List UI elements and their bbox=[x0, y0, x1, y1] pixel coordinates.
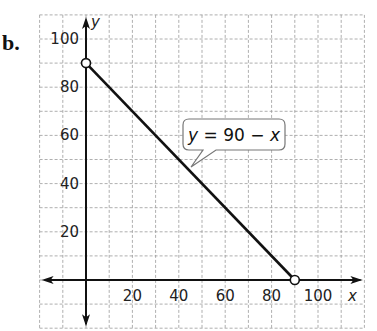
function-line bbox=[86, 63, 295, 280]
graph: 2040608010020406080100xy y = 90 − x bbox=[0, 0, 377, 331]
y-tick-label: 60 bbox=[60, 126, 79, 144]
x-tick-label: 60 bbox=[216, 287, 235, 305]
y-axis-label: y bbox=[90, 13, 101, 31]
y-tick-label: 100 bbox=[50, 30, 79, 48]
open-endpoint-icon bbox=[290, 276, 299, 285]
open-endpoint-icon bbox=[82, 59, 91, 68]
equation-label: y = 90 − x bbox=[187, 125, 281, 145]
y-tick-label: 80 bbox=[60, 78, 79, 96]
x-tick-label: 40 bbox=[169, 287, 188, 305]
x-axis-label: x bbox=[347, 287, 357, 305]
x-tick-label: 20 bbox=[123, 287, 142, 305]
y-tick-label: 20 bbox=[60, 223, 79, 241]
plot-line bbox=[82, 59, 300, 285]
x-tick-label: 80 bbox=[262, 287, 281, 305]
x-tick-label: 100 bbox=[304, 287, 333, 305]
y-tick-label: 40 bbox=[60, 175, 79, 193]
